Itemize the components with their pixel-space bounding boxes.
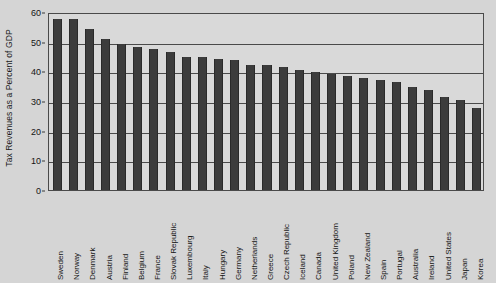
y-tick-mark <box>42 161 45 162</box>
bar <box>133 47 142 190</box>
x-tick-label: Luxembourg <box>177 192 193 280</box>
y-tick-label: 10 <box>31 156 41 166</box>
bar <box>376 80 385 190</box>
x-tick-label: Belgium <box>129 192 145 280</box>
y-tick-mark <box>42 13 45 14</box>
bar <box>408 87 417 190</box>
x-tick-label: Ireland <box>419 192 435 280</box>
bar <box>279 67 288 190</box>
x-tick-label: New Zealand <box>355 192 371 280</box>
x-tick-label: Sweden <box>48 192 64 280</box>
x-tick-label: United Kingdom <box>323 192 339 280</box>
bar <box>166 52 175 190</box>
bar <box>295 70 304 190</box>
y-tick-mark <box>42 72 45 73</box>
x-tick-label: Korea <box>468 192 484 280</box>
bar <box>149 49 158 190</box>
x-tick-label: Italy <box>193 192 209 280</box>
x-tick-label: Japan <box>452 192 468 280</box>
bar <box>101 39 110 190</box>
bar <box>85 29 94 190</box>
y-tick-mark <box>42 191 45 192</box>
bar <box>424 90 433 190</box>
y-axis-tick-labels: 0102030405060 <box>18 13 45 191</box>
tax-revenue-bar-chart: Tax Revenues as a Percent of GDP 0102030… <box>0 0 496 283</box>
x-tick-label: Poland <box>339 192 355 280</box>
bar <box>117 44 126 190</box>
x-tick-label: Denmark <box>80 192 96 280</box>
bar <box>214 59 223 190</box>
bar <box>472 108 481 190</box>
x-tick-label: Iceland <box>290 192 306 280</box>
x-tick-label: Hungary <box>209 192 225 280</box>
bar <box>327 74 336 190</box>
x-tick-label: Netherlands <box>242 192 258 280</box>
x-tick-label: Austria <box>96 192 112 280</box>
x-tick-label: Finland <box>113 192 129 280</box>
x-tick-label: United States <box>436 192 452 280</box>
y-tick-label: 20 <box>31 127 41 137</box>
y-tick-label: 40 <box>31 67 41 77</box>
bar <box>53 19 62 190</box>
x-tick-label: France <box>145 192 161 280</box>
bar <box>311 72 320 190</box>
y-axis-title-text: Tax Revenues as a Percent of GDP <box>4 29 14 166</box>
bar <box>69 19 78 190</box>
bar <box>230 60 239 190</box>
bar <box>246 65 255 190</box>
x-tick-label-text: Korea <box>476 259 485 280</box>
x-tick-label: Greece <box>258 192 274 280</box>
plot-area <box>48 13 484 191</box>
x-tick-label: Germany <box>226 192 242 280</box>
bar <box>440 97 449 190</box>
y-tick-mark <box>42 102 45 103</box>
bar <box>182 57 191 191</box>
bar <box>359 78 368 190</box>
bar <box>456 100 465 190</box>
bar <box>198 57 207 190</box>
x-tick-label: Norway <box>64 192 80 280</box>
y-tick-label: 60 <box>31 8 41 18</box>
y-tick-mark <box>42 42 45 43</box>
x-tick-label: Portugal <box>387 192 403 280</box>
bar <box>343 76 352 190</box>
y-axis-title: Tax Revenues as a Percent of GDP <box>0 0 18 195</box>
x-axis-tick-labels: SwedenNorwayDenmarkAustriaFinlandBelgium… <box>48 192 484 283</box>
bar <box>392 82 401 190</box>
bar <box>262 65 271 190</box>
x-tick-label: Spain <box>371 192 387 280</box>
bars-layer <box>49 14 483 190</box>
y-tick-mark <box>42 131 45 132</box>
y-tick-label: 30 <box>31 97 41 107</box>
y-tick-label: 0 <box>36 186 41 196</box>
x-tick-label: Canada <box>306 192 322 280</box>
x-tick-label: Czech Republic <box>274 192 290 280</box>
x-tick-label: Slovak Republic <box>161 192 177 280</box>
x-tick-label: Australia <box>403 192 419 280</box>
y-tick-label: 50 <box>31 38 41 48</box>
